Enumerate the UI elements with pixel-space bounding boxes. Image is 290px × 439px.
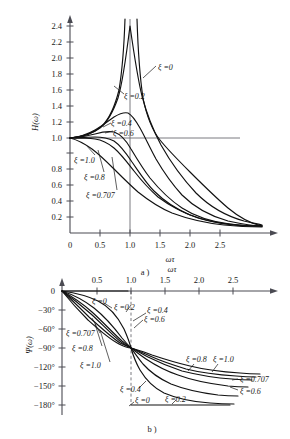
curve-label-b-zeta-0707-left: ξ =0.707 <box>66 329 96 338</box>
y-tick-label: −90° <box>38 343 55 353</box>
curve-label-b-zeta-02-top: ξ =0.2 <box>114 303 135 312</box>
curve-label-a-zeta-0707: ξ =0.707 <box>86 191 116 200</box>
y-tick-label: −180° <box>34 400 55 410</box>
panel-a-y-axis-title: H(ω) <box>30 113 40 132</box>
y-tick-label: −150° <box>34 381 55 391</box>
curve-label-b-zeta-0-bottom: ξ =0 <box>135 396 150 405</box>
curve-label-b-zeta-0707-right: ξ =0.707 <box>240 375 270 384</box>
curve-label-a-zeta-10: ξ =1.0 <box>74 156 95 165</box>
y-tick-label: 0.8 <box>51 164 62 174</box>
curve-label-a-zeta-0: ξ =0 <box>158 63 173 72</box>
y-axis-arrow-a <box>67 15 73 23</box>
magnitude-curve-zeta-10 <box>70 138 262 227</box>
y-tick-label: 1.4 <box>51 101 62 111</box>
curve-label-b-zeta-02-bottom: ξ =0.2 <box>165 395 186 404</box>
curve-label-b-zeta-08-left: ξ =0.8 <box>72 344 93 353</box>
panel-b-y-tick-labels: 0 −30° −60° −90° −120° −150° −180° <box>34 286 55 410</box>
curve-label-a-zeta-02: ξ =0.2 <box>124 92 145 101</box>
panel-a-axes <box>67 15 278 236</box>
magnitude-curve-zeta-04 <box>70 113 262 226</box>
y-tick-label: 1.8 <box>51 69 62 79</box>
curve-label-a-zeta-06: ξ =0.6 <box>113 129 134 138</box>
panel-a-x-tick-labels: 0 0.5 1.0 1.5 2.0 2.5 <box>68 240 225 250</box>
x-tick-label: 1.5 <box>155 240 166 250</box>
y-tick-label: 2.4 <box>51 21 62 31</box>
x-tick-label: 1.0 <box>125 240 136 250</box>
x-tick-label: 2.0 <box>194 275 205 285</box>
panel-b-phase: 0 −30° −60° −90° −120° −150° −180° 0.5 1… <box>24 264 278 434</box>
x-origin-label: 0 <box>68 240 72 250</box>
x-tick-label: 0.5 <box>92 275 103 285</box>
curve-label-b-zeta-10-right: ξ =1.0 <box>213 355 234 364</box>
x-tick-label: 1.5 <box>160 275 171 285</box>
y-tick-label: 1.0 <box>51 133 62 143</box>
curve-label-b-zeta-06-top: ξ =0.6 <box>144 315 165 324</box>
y-origin-label: 0 <box>51 286 55 296</box>
curve-label-b-zeta-10-left: ξ =1.0 <box>80 361 101 370</box>
y-tick-label: −60° <box>38 324 55 334</box>
curve-label-b-zeta-0-top: ξ =0 <box>92 297 107 306</box>
curve-label-a-zeta-04: ξ =0.4 <box>111 119 132 128</box>
y-tick-label: 0.4 <box>51 196 62 206</box>
x-axis-arrow-a <box>270 230 278 236</box>
y-tick-label: 1.2 <box>51 117 62 127</box>
y-tick-label: 2.2 <box>51 37 62 47</box>
panel-a-y-tick-labels: 0.2 0.4 0.6 0.8 1.0 1.2 1.4 1.6 1.8 2.0 … <box>51 21 62 222</box>
x-tick-label: 0.5 <box>95 240 106 250</box>
x-tick-label: 1.0 <box>126 275 137 285</box>
panel-b-curve-labels: ξ =0 ξ =0.2 ξ =0.4 ξ =0.6 ξ =0.707 ξ =0.… <box>66 297 270 406</box>
x-tick-label: 2.5 <box>228 275 239 285</box>
y-tick-label: −30° <box>38 305 55 315</box>
y-axis-arrow-b <box>59 278 65 286</box>
y-tick-label: 0.6 <box>51 180 62 190</box>
panel-a-curve-labels: ξ =0 ξ =0.2 ξ =0.4 ξ =0.6 ξ =1.0 ξ =0.8 … <box>74 63 173 200</box>
curve-label-a-zeta-08: ξ =0.8 <box>84 173 105 182</box>
y-tick-label: 1.6 <box>51 85 62 95</box>
figure-svg: 0.2 0.4 0.6 0.8 1.0 1.2 1.4 1.6 1.8 2.0 … <box>0 0 290 439</box>
panel-a-magnitude: 0.2 0.4 0.6 0.8 1.0 1.2 1.4 1.6 1.8 2.0 … <box>30 15 278 277</box>
curve-label-b-zeta-04-top: ξ =0.4 <box>147 306 168 315</box>
x-tick-label: 2.0 <box>185 240 196 250</box>
curve-label-b-zeta-08-right: ξ =0.8 <box>186 355 207 364</box>
curve-label-b-zeta-04-bottom: ξ =0.4 <box>120 385 141 394</box>
x-axis-arrow-b <box>270 288 278 294</box>
x-tick-label: 2.5 <box>215 240 226 250</box>
panel-b-x-tick-labels: 0.5 1.0 1.5 2.0 2.5 <box>92 275 239 285</box>
panel-b-label: b ) <box>147 424 156 434</box>
panel-b-x-axis-title: ωτ <box>167 264 177 274</box>
y-tick-label: −120° <box>34 362 55 372</box>
figure-bode-second-order: 0.2 0.4 0.6 0.8 1.0 1.2 1.4 1.6 1.8 2.0 … <box>0 0 290 439</box>
panel-a-x-axis-title: ωτ <box>165 254 175 264</box>
panel-b-y-axis-title: Ψ(ω) <box>24 336 34 354</box>
y-tick-label: 0.2 <box>51 212 62 222</box>
curve-label-b-zeta-06-right: ξ =0.6 <box>240 387 261 396</box>
panel-a-label: a ) <box>141 267 150 277</box>
y-tick-label: 2.0 <box>51 53 62 63</box>
